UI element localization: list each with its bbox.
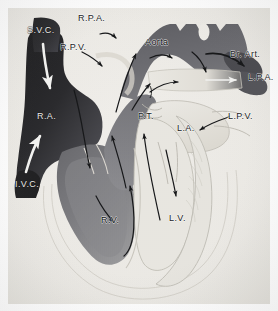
label-aorta: Aorta	[145, 38, 169, 47]
label-lpa: L.P.A.	[248, 73, 274, 82]
label-lpv: L.P.V.	[228, 112, 253, 121]
label-brart: Br. Art.	[230, 50, 260, 59]
label-rv: R.V.	[101, 216, 119, 225]
label-lv: L.V.	[169, 214, 186, 223]
label-ivc: I.V.C.	[15, 180, 39, 189]
label-rpa: R.P.A.	[78, 14, 105, 23]
label-ra: R.A.	[37, 112, 56, 121]
label-pt: P.T.	[138, 112, 154, 121]
aorta-ostium	[199, 24, 210, 41]
heart-diagram-svg	[0, 0, 278, 311]
heart-anatomy-figure: S.V.C. R.P.A. R.P.V. Aorta Br. Art. L.P.…	[0, 0, 278, 311]
label-la: L.A.	[177, 124, 195, 133]
label-rpv: R.P.V.	[60, 43, 86, 52]
label-svc: S.V.C.	[27, 26, 55, 35]
